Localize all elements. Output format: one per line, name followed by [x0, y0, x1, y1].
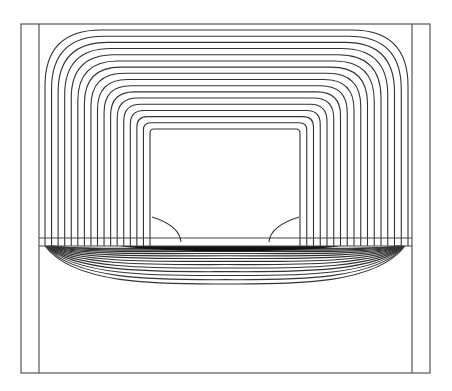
- flux-line: [65, 49, 388, 246]
- flux-line: [78, 61, 374, 246]
- air-gap-band: [39, 238, 412, 246]
- flux-line: [137, 117, 314, 246]
- flux-line-diagram: [0, 0, 452, 391]
- flux-line: [130, 110, 320, 246]
- flux-line: [84, 67, 367, 246]
- upper-flux-contours: [45, 30, 408, 246]
- flux-line: [111, 92, 341, 246]
- flux-line: [150, 129, 300, 246]
- flux-line: [143, 123, 306, 246]
- lower-flux-contours: [45, 246, 405, 284]
- flux-line: [124, 104, 327, 246]
- flux-line: [104, 86, 347, 246]
